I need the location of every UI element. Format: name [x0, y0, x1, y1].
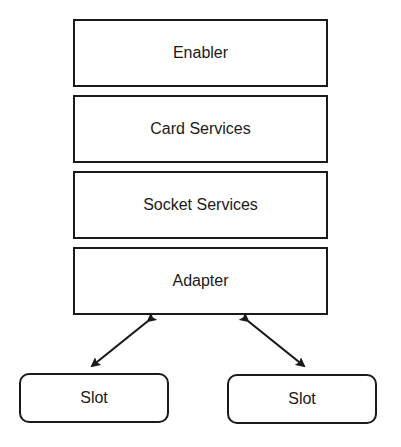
- slot-left: Slot: [19, 373, 169, 423]
- slot-label: Slot: [80, 389, 108, 407]
- double-arrow-right-icon: [248, 321, 304, 366]
- slot-label: Slot: [288, 390, 316, 408]
- slot-right: Slot: [227, 374, 377, 424]
- double-arrow-left-icon: [92, 321, 148, 366]
